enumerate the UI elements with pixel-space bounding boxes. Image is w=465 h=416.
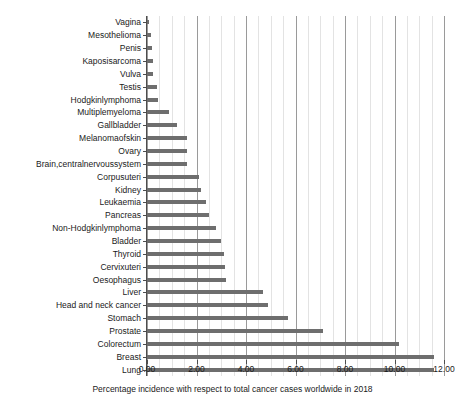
category-label: Testis — [119, 83, 141, 92]
bar — [147, 213, 209, 217]
gridline-major — [197, 16, 198, 376]
gridline-minor — [221, 16, 222, 376]
category-label: Oesophagus — [93, 276, 141, 285]
gridline-minor — [370, 16, 371, 376]
category-label: Kaposisarcoma — [82, 57, 141, 66]
category-label: Melanomaofskin — [79, 134, 141, 143]
cancer-incidence-bar-chart: VaginaMesotheliomaPenisKaposisarcomaVulv… — [0, 0, 465, 416]
category-label: Thyroid — [113, 250, 141, 259]
gridline-minor — [382, 16, 383, 376]
bar — [147, 149, 187, 153]
gridline-minor — [283, 16, 284, 376]
category-label: Corpusuteri — [97, 173, 141, 182]
gridline-minor — [333, 16, 334, 376]
category-label: Leukaemia — [99, 198, 141, 207]
gridline-minor — [209, 16, 210, 376]
bar — [147, 46, 152, 50]
gridline-minor — [271, 16, 272, 376]
bar — [147, 342, 399, 346]
bar — [147, 278, 226, 282]
bar — [147, 239, 221, 243]
bar — [147, 175, 199, 179]
bar — [147, 123, 177, 127]
bar — [147, 200, 206, 204]
gridline-minor — [159, 16, 160, 376]
category-label: Brain,centralnervoussystem — [36, 160, 141, 169]
bar — [147, 33, 151, 37]
x-axis-tick-label: 0.00 — [139, 364, 156, 374]
x-axis-tick-label: 4.00 — [238, 364, 255, 374]
y-axis-line — [146, 16, 147, 376]
bar — [147, 290, 263, 294]
bar — [147, 226, 216, 230]
category-label: Ovary — [118, 147, 141, 156]
bar — [147, 59, 153, 63]
gridline-minor — [172, 16, 173, 376]
category-label: Stomach — [107, 314, 141, 323]
gridline-major — [395, 16, 396, 376]
gridline-minor — [432, 16, 433, 376]
category-label: Multiplemyeloma — [77, 108, 141, 117]
category-label: Kidney — [115, 186, 141, 195]
gridline-minor — [308, 16, 309, 376]
bar — [147, 20, 149, 24]
plot-area: VaginaMesotheliomaPenisKaposisarcomaVulv… — [147, 16, 444, 376]
category-label: Hodgkinlymphoma — [71, 96, 141, 105]
gridline-minor — [258, 16, 259, 376]
bar — [147, 98, 158, 102]
category-label: Non-Hodgkinlymphoma — [52, 224, 141, 233]
category-label: Penis — [120, 44, 141, 53]
x-axis-title: Percentage incidence with respect to tot… — [0, 384, 465, 394]
category-label: Breast — [116, 353, 141, 362]
bar — [147, 188, 201, 192]
gridline-major — [246, 16, 247, 376]
category-label: Gallbladder — [98, 121, 141, 130]
gridline-major — [296, 16, 297, 376]
bar — [147, 162, 187, 166]
gridline-major — [345, 16, 346, 376]
bar — [147, 329, 323, 333]
gridline-minor — [407, 16, 408, 376]
bar — [147, 316, 288, 320]
category-label: Liver — [123, 288, 141, 297]
category-label: Bladder — [112, 237, 141, 246]
x-axis-tick-label: 6.00 — [287, 364, 304, 374]
gridline-minor — [419, 16, 420, 376]
category-label: Vulva — [120, 70, 141, 79]
bar — [147, 303, 268, 307]
bar — [147, 85, 157, 89]
bar — [147, 355, 434, 359]
x-axis-tick-label: 10.00 — [384, 364, 405, 374]
category-label: Head and neck cancer — [56, 301, 141, 310]
bar — [147, 252, 224, 256]
gridline-minor — [357, 16, 358, 376]
x-axis-tick-label: 8.00 — [337, 364, 354, 374]
bar — [147, 110, 169, 114]
gridline-minor — [234, 16, 235, 376]
category-label: Prostate — [109, 327, 141, 336]
category-label: Colorectum — [98, 340, 141, 349]
x-axis-tick-label: 12.00 — [433, 364, 454, 374]
category-label: Cervixuteri — [100, 263, 141, 272]
category-label: Vagina — [115, 18, 141, 27]
bar — [147, 136, 187, 140]
bar — [147, 72, 153, 76]
bar — [147, 265, 225, 269]
gridline-major — [147, 16, 148, 376]
x-axis-tick-label: 2.00 — [188, 364, 205, 374]
category-label: Mesothelioma — [88, 31, 141, 40]
gridline-minor — [320, 16, 321, 376]
gridline-minor — [184, 16, 185, 376]
gridline-major — [444, 16, 445, 376]
category-label: Pancreas — [105, 211, 141, 220]
